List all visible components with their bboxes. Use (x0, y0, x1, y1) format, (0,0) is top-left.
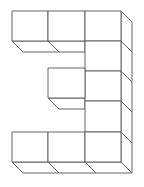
top-row-bottom-faces (12, 41, 85, 52)
middle-cube (48, 68, 85, 98)
cube-r3-c2 (48, 68, 85, 98)
cube-r1-c1 (12, 11, 48, 41)
cube-r5-c3 (85, 132, 121, 162)
diagram-canvas (0, 0, 144, 187)
cube-r2-c3 (85, 41, 121, 71)
top-row-cubes (12, 11, 121, 41)
bottom-row-bottom-faces (12, 162, 132, 173)
middle-block-bottom-face (48, 98, 85, 109)
right-column-cubes (85, 41, 121, 132)
cube-r5-c2 (48, 132, 85, 162)
right-depth-faces (121, 11, 132, 173)
cube-r1-c3 (85, 11, 121, 41)
cube-r1-c2 (48, 11, 85, 41)
cube-r3-c3 (85, 71, 121, 101)
cube-r4-c3 (85, 101, 121, 132)
cube-r5-c1 (12, 132, 48, 162)
bottom-row-cubes (12, 132, 121, 162)
cube-figure-3 (0, 0, 144, 187)
